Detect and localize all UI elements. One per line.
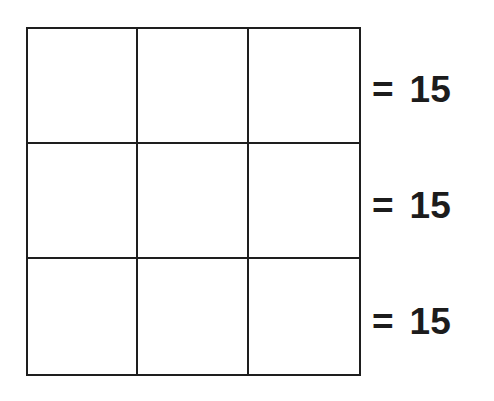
row-3-sum-label: =15 <box>372 297 451 347</box>
row-2-sum-value: 15 <box>410 185 451 226</box>
grid-cell-r3c2[interactable] <box>138 259 248 374</box>
grid-cell-r1c3[interactable] <box>249 29 359 144</box>
equals-sign: = <box>372 297 394 347</box>
grid-cell-r2c2[interactable] <box>138 144 248 259</box>
equals-sign: = <box>372 181 394 231</box>
grid-cell-r3c1[interactable] <box>28 259 138 374</box>
magic-square-grid <box>26 27 361 376</box>
row-2-sum-label: =15 <box>372 181 451 231</box>
row-1-sum-value: 15 <box>410 69 451 110</box>
row-1-sum-label: =15 <box>372 65 451 115</box>
grid-cell-r2c3[interactable] <box>249 144 359 259</box>
equals-sign: = <box>372 65 394 115</box>
row-3-sum-value: 15 <box>410 301 451 342</box>
grid-cell-r3c3[interactable] <box>249 259 359 374</box>
grid-cell-r1c2[interactable] <box>138 29 248 144</box>
grid-cell-r1c1[interactable] <box>28 29 138 144</box>
grid-cell-r2c1[interactable] <box>28 144 138 259</box>
